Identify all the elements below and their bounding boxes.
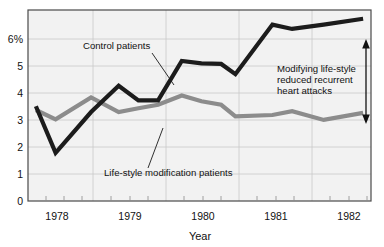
x-tick-label-1979: 1979 (118, 210, 142, 222)
y-tick-label-3: 3 (17, 114, 23, 126)
y-tick-label-4: 4 (17, 87, 23, 99)
series-label-lifestyle-modification-patients: Life-style modification patients (104, 167, 233, 178)
y-tick-label-6: 6% (8, 33, 23, 45)
y-tick-label-5: 5 (17, 60, 23, 72)
x-axis-title: Year (189, 230, 212, 242)
y-tick-label-1: 1 (17, 168, 23, 180)
chart-figure: 6% 5 4 3 2 1 0 1978 1979 1980 1981 1982 … (0, 0, 384, 247)
gap-callout-line-2: reduced recurrent (277, 74, 353, 85)
gap-callout-line-3: heart attacks (277, 85, 332, 96)
series-label-control-patients: Control patients (83, 40, 150, 51)
y-tick-label-2: 2 (17, 141, 23, 153)
gap-callout-line-1: Modifying life-style (277, 63, 356, 74)
x-tick-label-1981: 1981 (264, 210, 288, 222)
x-tick-label-1980: 1980 (191, 210, 215, 222)
x-tick-label-1978: 1978 (45, 210, 69, 222)
line-chart: 6% 5 4 3 2 1 0 1978 1979 1980 1981 1982 … (0, 0, 384, 247)
y-tick-label-0: 0 (17, 195, 23, 207)
x-tick-label-1982: 1982 (337, 210, 361, 222)
